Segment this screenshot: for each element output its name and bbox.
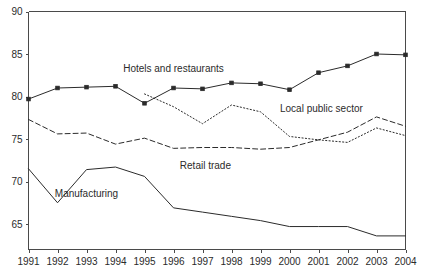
x-tick-label: 1992 xyxy=(46,256,69,267)
x-tick-label: 1995 xyxy=(133,256,156,267)
x-tick-label: 2004 xyxy=(394,256,417,267)
series-marker xyxy=(288,88,292,92)
series-line-manufacturing xyxy=(29,167,406,236)
series-marker xyxy=(201,87,205,91)
x-tick-label: 1997 xyxy=(191,256,214,267)
series-marker xyxy=(404,53,408,57)
series-marker xyxy=(259,82,263,86)
series-label-manufacturing: Manufacturing xyxy=(55,188,118,199)
series-line-retail-trade xyxy=(29,117,406,149)
x-axis-ticks: 1991199219931994199519961997199819992000… xyxy=(17,250,417,267)
chart-canvas: 908580757065 199119921993199419951996199… xyxy=(0,0,427,276)
x-tick-label: 2001 xyxy=(307,256,330,267)
line-chart: 908580757065 199119921993199419951996199… xyxy=(0,0,427,276)
x-tick-label: 2000 xyxy=(278,256,301,267)
y-tick-label: 70 xyxy=(11,176,23,187)
series-label-layer: Hotels and restaurantsLocal public secto… xyxy=(55,63,364,199)
series-marker xyxy=(85,85,89,89)
series-label-hotels-and-restaurants: Hotels and restaurants xyxy=(123,63,224,74)
series-marker xyxy=(346,64,350,68)
x-tick-label: 1993 xyxy=(75,256,98,267)
series-marker xyxy=(317,71,321,75)
x-tick-label: 1991 xyxy=(17,256,40,267)
y-tick-label: 75 xyxy=(11,134,23,145)
x-tick-label: 1998 xyxy=(220,256,243,267)
y-tick-label: 90 xyxy=(11,6,23,17)
series-label-retail-trade: Retail trade xyxy=(180,160,232,171)
series-marker xyxy=(27,97,31,101)
series-marker xyxy=(114,85,118,89)
series-marker xyxy=(375,52,379,56)
series-layer xyxy=(27,52,408,236)
series-marker xyxy=(172,86,176,90)
x-tick-label: 2003 xyxy=(365,256,388,267)
series-line-hotels-and-restaurants xyxy=(29,54,406,103)
x-tick-label: 2002 xyxy=(336,256,359,267)
y-tick-label: 80 xyxy=(11,91,23,102)
y-tick-label: 65 xyxy=(11,219,23,230)
series-marker xyxy=(230,81,234,85)
series-line-local-public-sector xyxy=(145,94,406,142)
series-marker xyxy=(143,102,147,106)
series-label-local-public-sector: Local public sector xyxy=(280,103,363,114)
y-axis-ticks: 908580757065 xyxy=(11,6,28,230)
x-tick-label: 1999 xyxy=(249,256,272,267)
x-tick-label: 1996 xyxy=(162,256,185,267)
y-tick-label: 85 xyxy=(11,49,23,60)
series-marker xyxy=(56,86,60,90)
x-tick-label: 1994 xyxy=(104,256,127,267)
